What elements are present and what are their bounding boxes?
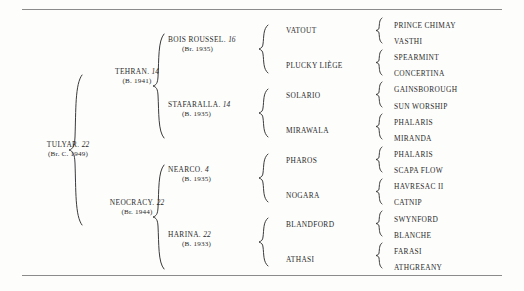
node-gen5-phalaris-1: PHALARIS <box>394 119 433 126</box>
node-gen3-nearco: NEARCO. 4 (B. 1935) <box>168 166 260 183</box>
pedigree-chart: TULYAR. 22 (Br. C. 1949) TEHRAN. 14 (B. … <box>0 0 524 291</box>
node-gen5-blanche: BLANCHE <box>394 232 431 239</box>
node-gen5-scapa-flow: SCAPA FLOW <box>394 167 443 174</box>
node-name: TEHRAN. 14 <box>82 68 192 77</box>
node-gen5-miranda: MIRANDA <box>394 135 432 142</box>
node-year: (Br. 1935) <box>168 45 260 53</box>
node-gen5-concertina: CONCERTINA <box>394 70 445 77</box>
brace-gen2-tehran <box>152 33 166 139</box>
node-name: BOIS ROUSSEL. 16 <box>168 36 260 45</box>
node-gen4-pharos: PHAROS <box>286 157 317 164</box>
node-gen5-spearmint: SPEARMINT <box>394 54 439 61</box>
node-year: (B. 1933) <box>168 240 260 248</box>
node-year: (B. 1941) <box>82 77 192 85</box>
node-gen5-sun-worship: SUN WORSHIP <box>394 103 448 110</box>
node-gen5-phalaris-2: PHALARIS <box>394 151 433 158</box>
brace-gen4-7 <box>375 210 384 237</box>
brace-gen4-8 <box>375 242 384 269</box>
node-gen5-gainsborough: GAINSBOROUGH <box>394 86 457 93</box>
node-year: (Br. 1944) <box>82 208 192 216</box>
top-rule <box>22 9 502 10</box>
node-gen5-swynford: SWYNFORD <box>394 216 438 223</box>
node-gen5-prince-chimay: PRINCE CHIMAY <box>394 22 456 29</box>
node-gen5-vasthi: VASTHI <box>394 38 422 45</box>
node-gen2-tehran: TEHRAN. 14 (B. 1941) <box>82 68 192 85</box>
node-name: NEARCO. 4 <box>168 166 260 175</box>
node-year: (Br. C. 1949) <box>8 150 128 158</box>
node-gen5-catnip: CATNIP <box>394 199 422 206</box>
node-gen5-farasi: FARASI <box>394 248 422 255</box>
bottom-rule <box>22 275 502 276</box>
brace-gen4-3 <box>375 81 384 108</box>
node-gen5-athgreany: ATHGREANY <box>394 264 442 271</box>
node-gen3-harina: HARINA. 22 (B. 1933) <box>168 231 260 248</box>
node-name: HARINA. 22 <box>168 231 260 240</box>
brace-gen4-6 <box>375 178 384 205</box>
node-gen4-athasi: ATHASI <box>286 256 314 263</box>
node-gen4-mirawala: MIRAWALA <box>286 127 329 134</box>
node-name: TULYAR. 22 <box>8 141 128 150</box>
node-subject-tulyar: TULYAR. 22 (Br. C. 1949) <box>8 141 128 158</box>
node-gen4-blandford: BLANDFORD <box>286 221 334 228</box>
node-year: (B. 1935) <box>168 110 260 118</box>
node-gen4-plucky-liege: PLUCKY LIÈGE <box>286 62 343 69</box>
node-name: STAFARALLA. 14 <box>168 101 260 110</box>
brace-gen4-5 <box>375 146 384 173</box>
node-gen3-bois-roussel: BOIS ROUSSEL. 16 (Br. 1935) <box>168 36 260 53</box>
node-gen4-nogara: NOGARA <box>286 192 320 199</box>
node-gen3-stafaralla: STAFARALLA. 14 (B. 1935) <box>168 101 260 118</box>
brace-gen2-neocracy <box>152 164 166 270</box>
node-gen2-neocracy: NEOCRACY. 22 (Br. 1944) <box>82 199 192 216</box>
node-gen4-vatout: VATOUT <box>286 27 317 34</box>
node-gen5-havresac-ii: HAVRESAC II <box>394 183 444 190</box>
brace-gen4-4 <box>375 113 384 140</box>
brace-gen4-2 <box>375 49 384 76</box>
node-name: NEOCRACY. 22 <box>82 199 192 208</box>
node-year: (B. 1935) <box>168 175 260 183</box>
node-gen4-solario: SOLARIO <box>286 92 320 99</box>
brace-gen4-1 <box>375 17 384 44</box>
